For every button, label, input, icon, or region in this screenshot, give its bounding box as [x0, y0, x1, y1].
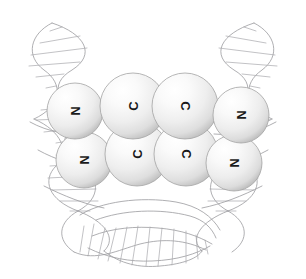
atom-top-c2-label: C — [178, 101, 193, 111]
figure-root: N C C N N C — [0, 0, 306, 279]
atom-bot-right-n[interactable]: N — [206, 135, 262, 191]
atom-bot-left-n[interactable]: N — [56, 132, 112, 188]
atom-bot-c1-label: C — [130, 149, 145, 159]
atom-bot-c2-label: C — [179, 149, 194, 159]
atom-top-right-n[interactable]: N — [213, 87, 269, 143]
molecular-figure: N C C N N C — [0, 0, 306, 279]
atom-top-right-n-label: N — [234, 110, 249, 119]
atom-bot-left-n-label: N — [77, 155, 92, 164]
atom-bot-right-n-label: N — [227, 158, 242, 167]
atom-top-c2[interactable]: C — [152, 73, 218, 139]
atom-top-c1-label: C — [126, 101, 141, 111]
atom-top-left-n[interactable]: N — [47, 83, 103, 139]
atom-top-left-n-label: N — [68, 106, 83, 115]
